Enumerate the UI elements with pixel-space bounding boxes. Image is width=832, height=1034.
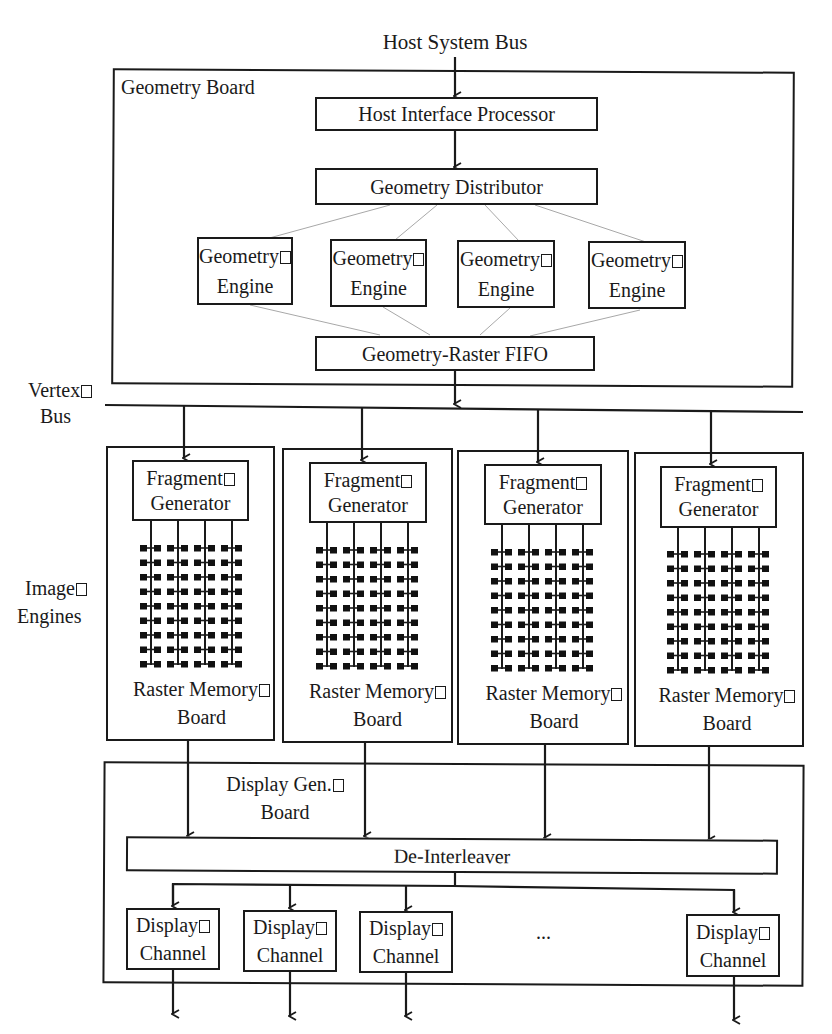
display-channel-2: DisplayChannel <box>243 910 337 972</box>
raster-memory-board-label: Raster MemoryBoard <box>464 679 644 735</box>
display-gen-board-label: Display Gen. Board <box>205 770 365 826</box>
geometry-engine-1: GeometryEngine <box>197 237 293 305</box>
display-channel-label: Channel <box>373 942 440 970</box>
geometry-engine-label: Geometry <box>591 249 671 271</box>
missing-glyph-icon <box>224 473 235 486</box>
display-channel-4: DisplayChannel <box>686 914 780 977</box>
missing-glyph-icon <box>576 477 587 490</box>
missing-glyph-icon <box>541 254 552 267</box>
fragment-generator-4: FragmentGenerator <box>660 466 777 528</box>
geometry-engine-label: Geometry <box>199 245 279 267</box>
vertex-bus-label-line1: Vertex <box>28 379 80 401</box>
geometry-raster-fifo-label: Geometry-Raster FIFO <box>317 338 593 369</box>
missing-glyph-icon <box>413 253 424 266</box>
fragment-generator-label: Generator <box>503 495 583 520</box>
geometry-board-label: Geometry Board <box>121 75 255 99</box>
missing-glyph-icon <box>316 922 327 935</box>
geometry-engine-label: Engine <box>478 274 535 304</box>
missing-glyph-icon <box>259 684 270 697</box>
display-gen-board-label-line1: Display Gen. <box>226 773 332 795</box>
raster-memory-board-label: Raster MemoryBoard <box>638 681 816 737</box>
display-gen-board-label-line2: Board <box>205 798 365 826</box>
vertex-bus-label-line2: Bus <box>28 403 92 429</box>
display-channel-label: Display <box>369 917 431 939</box>
geometry-engine-3: GeometryEngine <box>457 240 555 308</box>
display-channel-3: DisplayChannel <box>359 911 453 973</box>
vertex-bus-label: Vertex Bus <box>28 377 92 429</box>
fragment-generator-label: Fragment <box>324 469 401 491</box>
image-engine-grid-4 <box>667 526 777 676</box>
display-channel-label: Channel <box>257 941 324 969</box>
raster-memory-board-label-line2: Board <box>113 703 290 731</box>
fragment-generator-label: Fragment <box>146 467 223 489</box>
image-engines-label-line2: Engines <box>17 602 87 630</box>
missing-glyph-icon <box>752 479 763 492</box>
image-engines-label-line1: Image <box>25 577 75 599</box>
fragment-generator-2: FragmentGenerator <box>309 462 427 523</box>
fragment-generator-3: FragmentGenerator <box>484 464 602 525</box>
missing-glyph-icon <box>401 475 412 488</box>
display-channel-label: Display <box>696 921 758 943</box>
missing-glyph-icon <box>280 251 291 264</box>
missing-glyph-icon <box>784 690 795 703</box>
raster-memory-board-label-line1: Raster Memory <box>133 678 258 700</box>
geometry-engine-2: GeometryEngine <box>330 239 427 307</box>
geometry-engine-label: Engine <box>350 273 407 303</box>
fragment-generator-label: Fragment <box>499 471 576 493</box>
missing-glyph-icon <box>81 385 92 398</box>
fragment-generator-label: Generator <box>328 493 408 518</box>
missing-glyph-icon <box>672 255 683 268</box>
ellipsis: ... <box>536 920 551 944</box>
fragment-generator-1: FragmentGenerator <box>132 460 249 521</box>
display-channel-label: Channel <box>140 939 207 967</box>
host-system-bus-label: Host System Bus <box>355 30 555 54</box>
raster-memory-board-label-line1: Raster Memory <box>486 682 611 704</box>
display-channel-label: Display <box>253 916 315 938</box>
display-channel-1: DisplayChannel <box>126 908 220 970</box>
geometry-distributor: Geometry Distributor <box>315 168 598 205</box>
raster-memory-board-label-line2: Board <box>288 705 467 733</box>
raster-memory-board-label: Raster MemoryBoard <box>288 677 467 733</box>
fragment-generator-label: Generator <box>679 497 759 522</box>
raster-memory-board-label-line2: Board <box>464 707 644 735</box>
host-interface-processor-label: Host Interface Processor <box>317 99 596 129</box>
missing-glyph-icon <box>435 686 446 699</box>
geometry-engine-label: Geometry <box>333 247 413 269</box>
image-engine-grid-3 <box>491 523 601 673</box>
missing-glyph-icon <box>76 583 87 596</box>
raster-memory-board-label-line1: Raster Memory <box>309 680 434 702</box>
geometry-engine-label: Engine <box>217 271 274 301</box>
raster-memory-board-label: Raster MemoryBoard <box>113 675 290 731</box>
host-interface-processor: Host Interface Processor <box>315 97 598 131</box>
fragment-generator-label: Fragment <box>674 473 751 495</box>
geometry-raster-fifo: Geometry-Raster FIFO <box>315 336 595 371</box>
raster-memory-board-label-line2: Board <box>638 709 816 737</box>
image-engine-grid-2 <box>316 521 426 671</box>
geometry-distributor-label: Geometry Distributor <box>317 170 596 203</box>
image-engine-grid-1 <box>140 519 250 669</box>
geometry-engine-label: Geometry <box>460 248 540 270</box>
display-channel-label: Channel <box>700 946 767 974</box>
missing-glyph-icon <box>199 920 210 933</box>
raster-memory-board-label-line1: Raster Memory <box>659 684 784 706</box>
geometry-engine-4: GeometryEngine <box>588 241 686 309</box>
missing-glyph-icon <box>759 927 770 940</box>
image-engines-label: Image Engines <box>17 574 87 630</box>
missing-glyph-icon <box>611 688 622 701</box>
missing-glyph-icon <box>432 923 443 936</box>
missing-glyph-icon <box>333 779 344 792</box>
de-interleaver: De-Interleaver <box>126 836 778 874</box>
display-channel-label: Display <box>136 914 198 936</box>
fragment-generator-label: Generator <box>151 491 231 516</box>
geometry-engine-label: Engine <box>609 275 666 305</box>
de-interleaver-label: De-Interleaver <box>128 838 776 872</box>
